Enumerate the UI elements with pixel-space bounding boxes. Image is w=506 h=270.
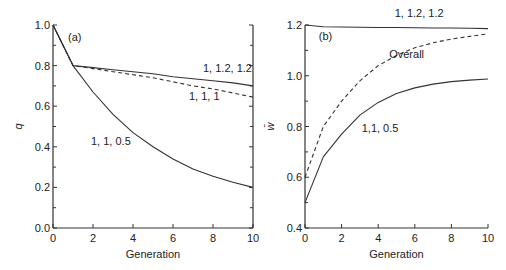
y-tick-label: 0.8 bbox=[287, 121, 302, 133]
x-tick-label: 8 bbox=[448, 232, 454, 244]
y-tick-label: 0.4 bbox=[287, 222, 302, 234]
annotation-label: 1, 1, 0.5 bbox=[91, 135, 131, 147]
annotation-label: 1, 1.2, 1.2 bbox=[203, 62, 252, 74]
x-axis-title: Generation bbox=[369, 248, 423, 260]
y-tick-label: 0.6 bbox=[35, 100, 50, 112]
x-tick-label: 0 bbox=[302, 232, 308, 244]
x-tick-label: 10 bbox=[482, 232, 494, 244]
y-axis-title: q bbox=[12, 123, 24, 130]
y-tick-label: 0.6 bbox=[287, 171, 302, 183]
annotation-label: (b) bbox=[319, 30, 332, 42]
y-tick-label: 0.8 bbox=[35, 60, 50, 72]
x-tick-label: 4 bbox=[130, 232, 136, 244]
annotation-label: Overall bbox=[389, 48, 424, 60]
x-tick-label: 2 bbox=[339, 232, 345, 244]
annotation-label: 1, 1.2, 1.2 bbox=[395, 7, 444, 19]
x-tick-label: 0 bbox=[50, 232, 56, 244]
y-tick-label: 0.4 bbox=[35, 141, 50, 153]
y-tick-label: 1.0 bbox=[287, 70, 302, 82]
series-line bbox=[305, 25, 488, 29]
series-line bbox=[53, 25, 253, 187]
panel-b-chart: 02468100.40.60.81.01.2Generationw̄(b)1, … bbox=[264, 7, 494, 260]
x-tick-label: 8 bbox=[210, 232, 216, 244]
annotation-label: 1,1, 0.5 bbox=[362, 122, 399, 134]
x-tick-label: 2 bbox=[90, 232, 96, 244]
annotation-label: 1, 1, 1 bbox=[189, 90, 220, 102]
x-tick-label: 4 bbox=[375, 232, 381, 244]
x-tick-label: 10 bbox=[247, 232, 259, 244]
x-tick-label: 6 bbox=[412, 232, 418, 244]
series-line bbox=[305, 79, 488, 203]
y-tick-label: 1.2 bbox=[287, 19, 302, 31]
x-tick-label: 6 bbox=[170, 232, 176, 244]
x-axis-title: Generation bbox=[126, 248, 180, 260]
y-tick-label: 0.0 bbox=[35, 222, 50, 234]
y-tick-label: 0.2 bbox=[35, 181, 50, 193]
annotation-label: (a) bbox=[68, 31, 81, 43]
y-tick-label: 1.0 bbox=[35, 19, 50, 31]
panel-a-chart: 02468100.00.20.40.60.81.0Generationq(a)1… bbox=[12, 19, 259, 260]
series-line bbox=[53, 25, 253, 86]
figure: 02468100.00.20.40.60.81.0Generationq(a)1… bbox=[0, 0, 506, 270]
y-axis-title: w̄ bbox=[264, 121, 276, 130]
